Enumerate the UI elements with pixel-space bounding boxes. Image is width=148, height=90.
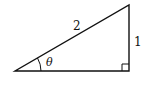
opposite-side-label: 1 bbox=[134, 35, 142, 49]
right-angle-marker bbox=[122, 64, 129, 71]
angle-arc bbox=[38, 58, 42, 71]
angle-theta-label: θ bbox=[46, 56, 53, 69]
hypotenuse-label: 2 bbox=[73, 19, 81, 33]
triangle-diagram: 2 1 θ bbox=[0, 0, 148, 90]
triangle bbox=[15, 5, 129, 71]
